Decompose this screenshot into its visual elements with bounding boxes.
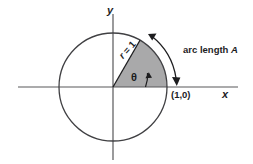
- arc-length-symbol: A: [231, 44, 238, 55]
- figure-canvas: y x r = 1 θ (1,0) arc length A: [0, 0, 253, 164]
- x-axis-label: x: [222, 89, 228, 100]
- arc-length-arrow-head-end: [172, 77, 180, 86]
- point-label: (1,0): [171, 90, 191, 100]
- arc-length-text: arc length: [183, 44, 231, 55]
- arc-length-label: arc length A: [183, 45, 238, 55]
- unit-circle-diagram: [0, 0, 253, 164]
- theta-label: θ: [131, 72, 137, 83]
- y-axis-label: y: [107, 5, 113, 16]
